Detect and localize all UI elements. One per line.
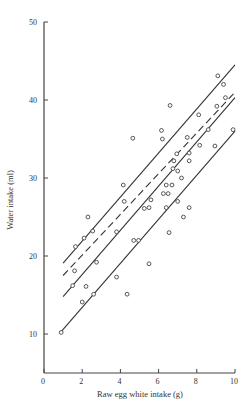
data-points	[59, 74, 235, 334]
data-point	[82, 236, 86, 240]
fit-lines	[61, 65, 235, 332]
data-point	[168, 104, 172, 108]
data-point	[176, 200, 180, 204]
data-point	[95, 260, 99, 264]
data-point	[167, 231, 171, 235]
data-point	[216, 74, 220, 78]
data-point	[122, 200, 126, 204]
data-point	[142, 207, 146, 211]
regression-line	[63, 92, 235, 275]
data-point	[147, 206, 151, 210]
data-point	[224, 96, 228, 100]
data-point	[166, 192, 170, 196]
data-point	[74, 245, 78, 249]
data-point	[197, 113, 201, 117]
data-point	[161, 192, 165, 196]
y-axis-label: Water intake (ml)	[5, 170, 15, 230]
y-tick-label: 50	[29, 18, 37, 27]
data-point	[222, 83, 226, 87]
data-point	[187, 159, 191, 163]
scatter-chart: 10203040500246810 Raw egg white intake (…	[0, 0, 250, 412]
upper-bound-line	[63, 65, 235, 263]
data-point	[231, 128, 235, 132]
y-tick-label: 40	[29, 96, 37, 105]
data-point	[149, 198, 153, 202]
data-point	[175, 152, 179, 156]
data-point	[131, 136, 135, 140]
data-point	[161, 137, 165, 141]
data-point	[198, 143, 202, 147]
data-point	[86, 215, 90, 219]
data-point	[147, 262, 151, 266]
x-axis-label: Raw egg white intake (g)	[97, 389, 183, 399]
x-tick-label: 6	[156, 377, 160, 386]
data-point	[172, 159, 176, 163]
data-point	[73, 269, 77, 273]
data-point	[137, 239, 141, 243]
data-point	[71, 284, 75, 288]
x-tick-label: 2	[79, 377, 83, 386]
lower-bound-line	[61, 131, 235, 331]
data-point	[121, 183, 125, 187]
data-point	[80, 300, 84, 304]
data-point	[125, 292, 129, 296]
data-point	[180, 176, 184, 180]
data-point	[182, 215, 186, 219]
y-tick-label: 10	[29, 330, 37, 339]
x-tick-label: 10	[230, 377, 238, 386]
data-point	[171, 167, 175, 171]
data-point	[215, 104, 219, 108]
data-point	[187, 206, 191, 210]
y-tick-label: 30	[29, 174, 37, 183]
data-point	[160, 129, 164, 133]
data-point	[132, 239, 136, 243]
data-point	[213, 144, 217, 148]
y-tick-label: 20	[29, 252, 37, 261]
data-point	[187, 151, 191, 155]
data-point	[115, 275, 119, 279]
data-point	[170, 183, 174, 187]
x-tick-label: 4	[117, 377, 121, 386]
data-point	[92, 292, 96, 296]
data-point	[206, 128, 210, 132]
data-point	[185, 136, 189, 140]
data-point	[115, 230, 119, 234]
data-point	[164, 206, 168, 210]
x-tick-label: 0	[41, 377, 45, 386]
x-tick-label: 8	[194, 377, 198, 386]
data-point	[84, 285, 88, 289]
data-point	[59, 331, 63, 335]
data-point	[176, 169, 180, 173]
data-point	[91, 229, 95, 233]
data-point	[164, 183, 168, 187]
